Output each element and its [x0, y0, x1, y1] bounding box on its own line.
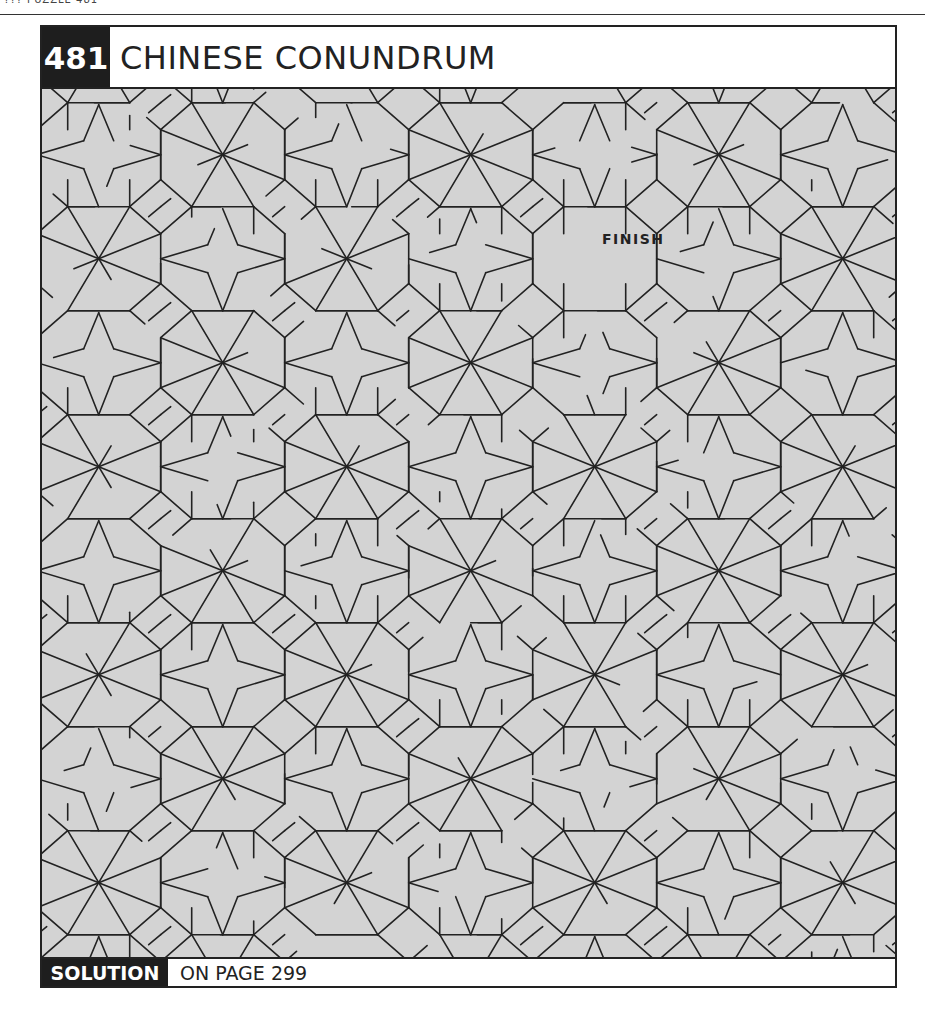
puzzle-frame: 481 CHINESE CONUNDRUM FINISH START SOLUT…	[40, 25, 897, 988]
puzzle-title-bar: 481 CHINESE CONUNDRUM	[42, 27, 895, 89]
header-rule	[0, 14, 925, 15]
solution-page-ref: ON PAGE 299	[180, 959, 307, 986]
running-head: ??? PUZZLE 481	[0, 0, 925, 14]
solution-footer: SOLUTION ON PAGE 299	[42, 957, 895, 986]
maze-lines[interactable]	[42, 89, 895, 959]
puzzle-number: 481	[42, 27, 110, 87]
running-head-text: ??? PUZZLE 481	[4, 0, 98, 5]
puzzle-title: CHINESE CONUNDRUM	[120, 27, 496, 87]
finish-label: FINISH	[602, 231, 665, 247]
solution-label: SOLUTION	[42, 959, 168, 986]
maze-board[interactable]: FINISH START	[42, 89, 895, 959]
